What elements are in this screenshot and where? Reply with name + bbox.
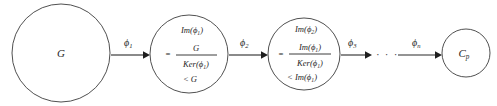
node-im-phi1-line1: Im(ϕ1)	[180, 25, 203, 36]
edge-phin: ϕn	[398, 37, 442, 59]
group-homomorphism-chain-diagram: ϕ1 ϕ2 ϕ3 · · · ϕn G Im(ϕ1) =	[0, 0, 497, 106]
edge-phi1: ϕ1	[111, 37, 150, 59]
node-im-phi1-equals: =	[165, 49, 171, 59]
node-im-phi1-numerator: G	[193, 43, 200, 53]
edge-phi3: ϕ3	[341, 37, 372, 59]
node-cp: Cp	[442, 29, 490, 77]
edge-phi2-label: ϕ2	[240, 37, 249, 49]
node-im-phi1-line4: < G	[183, 74, 198, 84]
edge-phi3-label: ϕ3	[348, 37, 357, 49]
node-im-phi1: Im(ϕ1) = G Ker(ϕ1) < G	[150, 15, 228, 93]
edge-phin-arrowhead	[435, 51, 442, 59]
edge-phi1-label: ϕ1	[124, 37, 132, 49]
node-im-phi2: Im(ϕ2) = Im(ϕ1) Ker(ϕ1) < Im(ϕ1)	[268, 18, 340, 90]
node-g-label: G	[57, 47, 65, 59]
edge-phi3-arrowhead	[365, 51, 372, 59]
node-im-phi2-equals: =	[278, 49, 284, 59]
diagram-canvas: ϕ1 ϕ2 ϕ3 · · · ϕn G Im(ϕ1) =	[0, 0, 497, 106]
node-im-phi2-line1: Im(ϕ2)	[294, 24, 317, 35]
edge-phin-label: ϕn	[412, 37, 421, 49]
edge-phi2: ϕ2	[229, 37, 268, 59]
node-g: G	[12, 4, 110, 102]
chain-ellipsis: · · ·	[376, 48, 399, 60]
node-im-phi2-numerator: Im(ϕ1)	[298, 42, 321, 53]
edge-phi1-arrowhead	[143, 51, 150, 59]
edge-phi2-arrowhead	[261, 51, 268, 59]
